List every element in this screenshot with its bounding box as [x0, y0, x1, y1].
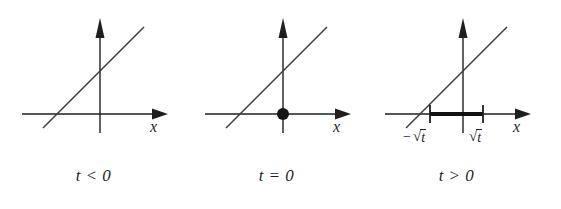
panel-caption-t-positive: t > 0	[363, 166, 550, 186]
panel-t-zero: x t = 0	[183, 0, 370, 209]
y-axis-arrowhead-icon	[279, 18, 288, 38]
tick-label-positive-sqrt-t: √t	[469, 128, 482, 145]
diagonal-line	[43, 27, 144, 128]
sqrt-group: √t	[469, 128, 482, 145]
y-axis-arrowhead-icon	[459, 18, 468, 38]
x-axis-label: x	[150, 118, 157, 136]
origin-equilibrium-dot	[277, 108, 289, 120]
diagonal-line	[226, 27, 327, 128]
panel-t-negative: x t < 0	[0, 0, 187, 209]
radicand: t	[476, 129, 482, 146]
x-axis-label: x	[513, 118, 520, 136]
bifurcation-figure: x t < 0 x t = 0 x −√	[0, 0, 561, 209]
minus-sign: −	[403, 129, 411, 144]
y-axis-arrowhead-icon	[96, 18, 105, 38]
sqrt-group: √t	[413, 128, 426, 145]
radicand: t	[420, 129, 426, 146]
panel-caption-t-negative: t < 0	[0, 166, 187, 186]
x-axis-label: x	[333, 118, 340, 136]
tick-label-negative-sqrt-t: −√t	[403, 128, 426, 145]
panel-caption-t-zero: t = 0	[183, 166, 370, 186]
panel-t-positive: x −√t √t t > 0	[363, 0, 550, 209]
